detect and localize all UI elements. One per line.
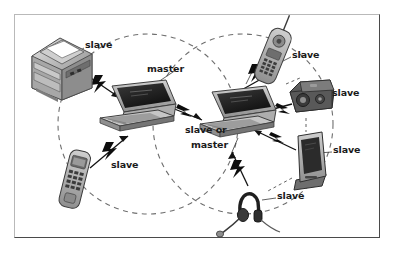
laptop-master-device <box>100 80 176 131</box>
pda-device <box>294 132 326 190</box>
leader-headset <box>262 198 276 200</box>
bolt-printer-link <box>91 75 106 93</box>
label-pda-role: slave <box>333 145 360 156</box>
label-laptop-master-role: master <box>147 64 184 75</box>
label-laptop-bridge-role-line1: slave or <box>185 125 227 136</box>
label-phone-role: slave <box>111 160 138 171</box>
headset-device <box>216 194 280 237</box>
label-laptop-bridge-role-line2: master <box>191 140 228 151</box>
leader-cordless-camera-link <box>286 78 300 84</box>
label-cordless-role: slave <box>292 50 319 61</box>
bolt-phone-link <box>102 142 117 160</box>
label-printer-role: slave <box>85 40 112 51</box>
leader-laptop2-down <box>232 138 238 152</box>
camera-device <box>290 80 334 112</box>
printer-device <box>32 38 92 102</box>
bluetooth-topology-figure: slave master slave slave slave or master… <box>0 0 395 253</box>
mobile-phone-device <box>58 148 92 209</box>
label-camera-role: slave <box>332 88 359 99</box>
label-headset-role: slave <box>277 191 304 202</box>
